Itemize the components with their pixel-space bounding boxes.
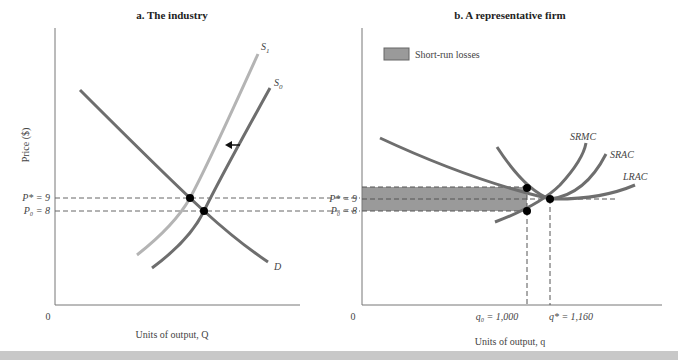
demand-label: D: [273, 261, 282, 272]
equilibrium-new: [186, 194, 194, 202]
panel-a-xlabel: Units of output, Q: [136, 329, 210, 340]
panel-a-pstar-label: P* = 9: [21, 192, 50, 203]
panel-a: a. The industry Price ($) Units of outpu…: [20, 9, 360, 340]
panel-b-pstar-label: P* = 9: [328, 193, 357, 204]
qstar-label: q* = 1,160: [549, 311, 593, 322]
demand-curve: [80, 90, 268, 262]
s0-label: S0: [274, 77, 283, 91]
legend-label: Short-run losses: [415, 49, 480, 60]
panel-a-title: a. The industry: [136, 9, 208, 21]
panel-a-ylabel: Price ($): [20, 128, 32, 163]
panel-b: b. A representative firm Units of output…: [328, 9, 662, 347]
srac-label: SRAC: [610, 149, 634, 160]
panel-b-pzero-label: P₀ = 8: [330, 205, 357, 216]
long-run-equilibrium-point: [546, 195, 554, 203]
srac-q0-point: [523, 184, 531, 192]
s1-label: S1: [261, 41, 270, 55]
panel-a-pzero-label: P₀ = 8: [23, 205, 50, 216]
shift-arrow-icon: [225, 141, 232, 149]
srmc-label: SRMC: [570, 131, 596, 142]
srmc-q0-point: [523, 207, 531, 215]
panel-b-title: b. A representative firm: [454, 9, 565, 21]
equilibrium-initial: [200, 207, 208, 215]
legend-swatch: [384, 48, 409, 60]
panel-b-origin: 0: [351, 311, 356, 322]
panel-a-origin: 0: [46, 311, 51, 322]
economics-figure: a. The industry Price ($) Units of outpu…: [0, 0, 678, 360]
bottom-bar: [0, 351, 678, 360]
panel-b-xlabel: Units of output, q: [475, 336, 546, 347]
q0-label: q₀ = 1,000: [476, 311, 519, 322]
lrac-label: LRAC: [622, 171, 648, 182]
